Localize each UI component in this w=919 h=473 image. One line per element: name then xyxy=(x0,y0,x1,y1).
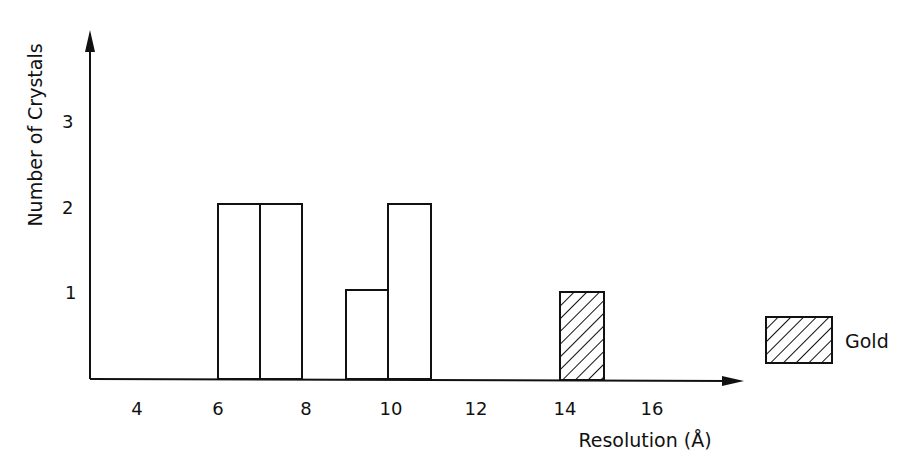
bar-6-7 xyxy=(218,204,260,379)
y-tick-label: 2 xyxy=(62,197,73,218)
bar-14-15-gold xyxy=(560,292,604,380)
legend-label-gold: Gold xyxy=(845,330,889,352)
x-tick-label: 12 xyxy=(465,398,488,419)
x-axis-arrow-icon xyxy=(722,376,744,386)
x-tick-label: 10 xyxy=(380,398,403,419)
x-tick-label: 6 xyxy=(212,398,223,419)
x-tick-label: 8 xyxy=(300,398,311,419)
histogram-chart: Number of Crystals 1 2 3 4 6 8 10 12 14 … xyxy=(0,0,919,473)
x-tick-label: 16 xyxy=(641,398,664,419)
y-axis-label: Number of Crystals xyxy=(24,43,46,226)
x-tick-label: 4 xyxy=(131,398,142,419)
y-tick-label: 3 xyxy=(62,111,73,132)
x-tick-label: 14 xyxy=(554,398,577,419)
bars xyxy=(218,204,431,379)
y-axis xyxy=(85,30,95,379)
bar-7-8 xyxy=(260,204,302,379)
legend-swatch-gold xyxy=(766,317,832,363)
bar-10-11 xyxy=(388,204,431,379)
y-axis-arrow-icon xyxy=(85,30,95,52)
legend: Gold xyxy=(766,317,889,363)
y-tick-label: 1 xyxy=(65,282,76,303)
x-axis-label: Resolution (Å) xyxy=(578,429,711,451)
bar-9-10 xyxy=(346,290,388,379)
